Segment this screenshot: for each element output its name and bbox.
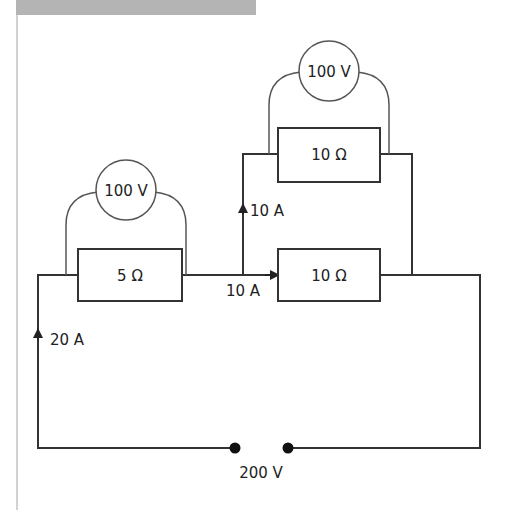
circuit-diagram: 5 Ω 10 Ω 10 Ω 100 V 100 V 20 A 10 A 10 A… bbox=[0, 0, 508, 510]
voltmeter-1-label: 100 V bbox=[104, 182, 148, 200]
resistor-10-ohm-lower: 10 Ω bbox=[278, 249, 380, 301]
terminal-right bbox=[283, 443, 294, 454]
svg-text:10 Ω: 10 Ω bbox=[311, 267, 346, 285]
current-label-lower: 10 A bbox=[226, 282, 261, 300]
source-voltage-label: 200 V bbox=[239, 464, 283, 482]
svg-text:5 Ω: 5 Ω bbox=[117, 267, 143, 285]
resistor-10-ohm-upper: 10 Ω bbox=[278, 128, 380, 182]
svg-text:10 Ω: 10 Ω bbox=[311, 146, 346, 164]
current-label-upper: 10 A bbox=[250, 202, 285, 220]
current-label-main: 20 A bbox=[50, 331, 85, 349]
terminal-left bbox=[230, 443, 241, 454]
voltmeter-2-label: 100 V bbox=[307, 63, 351, 81]
resistor-5-ohm: 5 Ω bbox=[78, 249, 182, 301]
